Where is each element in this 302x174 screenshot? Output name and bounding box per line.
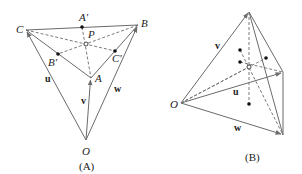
label-b: B: [141, 17, 148, 29]
caption-b: (B): [245, 151, 260, 164]
label-w: w: [114, 83, 122, 94]
label-a-prime: A′: [78, 11, 89, 23]
label-p: P: [87, 28, 95, 40]
point-face-2: [264, 56, 268, 60]
label-b-prime: B′: [48, 56, 58, 68]
point-face-3: [238, 60, 242, 64]
dashed-right: [240, 62, 283, 72]
vector-u: [181, 73, 281, 103]
label-v: v: [215, 40, 220, 51]
point-center: [247, 65, 251, 69]
label-w: w: [234, 122, 242, 133]
label-u: u: [45, 73, 51, 84]
label-o: O: [170, 98, 178, 110]
diagram-canvas: C B A A′ P B′ C′ O u v w (A) O v: [0, 0, 302, 174]
vector-w: [181, 103, 281, 134]
vector-w: [86, 27, 137, 140]
point-face-4: [247, 102, 251, 106]
figure-b: O v u w (B): [170, 12, 283, 164]
label-u: u: [233, 86, 239, 97]
dashed-o-face: [181, 58, 266, 103]
point-p: [84, 42, 88, 46]
cevian-b: [58, 25, 138, 54]
point-face-1: [238, 48, 242, 52]
label-c: C: [16, 23, 24, 35]
label-o: O: [82, 145, 90, 157]
caption-a: (A): [79, 160, 95, 173]
dashed-o-center: [181, 67, 249, 103]
dashed-bottom: [240, 50, 283, 135]
cevian-c: [26, 30, 115, 51]
edge-top-right: [249, 12, 283, 72]
vector-u: [27, 32, 86, 140]
point-a-prime: [80, 25, 84, 29]
figure-a: C B A A′ P B′ C′ O u v w (A): [16, 11, 148, 173]
label-v: v: [81, 95, 86, 106]
label-a: A: [94, 72, 102, 84]
label-c-prime: C′: [112, 52, 122, 64]
